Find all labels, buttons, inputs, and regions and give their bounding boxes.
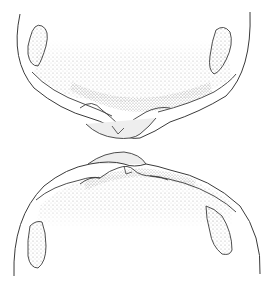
upper-structure [17,12,250,139]
illustration [0,0,268,284]
lower-structure [14,152,260,276]
